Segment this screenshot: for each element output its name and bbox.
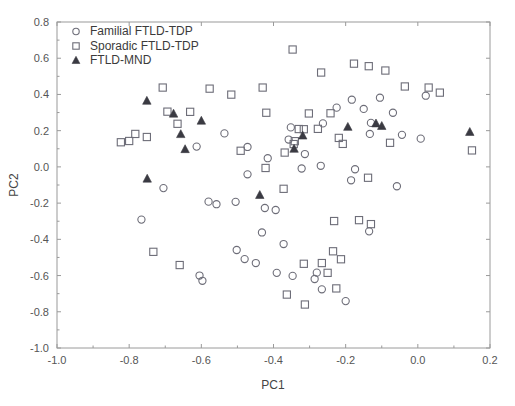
data-point-open-circle	[221, 130, 228, 137]
data-point-open-square	[401, 83, 408, 90]
data-point-open-square	[318, 259, 325, 266]
data-point-open-circle	[398, 131, 405, 138]
x-axis-tick-label: -1.0	[48, 354, 67, 366]
y-axis-tick-label: 0.6	[34, 52, 49, 64]
data-point-open-square	[318, 69, 325, 76]
data-point-open-square	[150, 248, 157, 255]
x-axis-tick-label: -0.4	[264, 354, 283, 366]
data-point-filled-triangle	[466, 128, 474, 136]
x-axis-tick-label: 0.0	[410, 354, 425, 366]
data-point-open-square	[73, 43, 79, 49]
data-point-open-square	[367, 221, 374, 228]
data-point-open-circle	[289, 272, 296, 279]
legend-item-label: FTLD-MND	[90, 53, 152, 67]
y-axis-tick-label: -0.2	[30, 197, 49, 209]
data-point-open-circle	[261, 204, 268, 211]
x-axis-tick-label: -0.6	[192, 354, 211, 366]
data-point-open-circle	[205, 198, 212, 205]
data-point-open-square	[324, 269, 331, 276]
data-point-open-circle	[273, 269, 280, 276]
data-point-open-circle	[287, 124, 294, 131]
data-point-open-circle	[347, 177, 354, 184]
data-point-open-square	[337, 256, 344, 263]
data-point-open-square	[237, 147, 244, 154]
y-axis-tick-label: -0.4	[30, 233, 49, 245]
data-point-open-circle	[138, 216, 145, 223]
data-point-open-circle	[319, 120, 326, 127]
legend-item-label: Familial FTLD-TDP	[90, 24, 193, 38]
series-group	[143, 96, 474, 198]
chart-legend: Familial FTLD-TDPSporadic FTLD-TDPFTLD-M…	[72, 24, 199, 67]
data-point-filled-triangle	[344, 122, 352, 130]
data-point-open-circle	[376, 94, 383, 101]
scatter-plot-figure: -1.0-0.8-0.6-0.4-0.20.00.2-1.0-0.8-0.6-0…	[0, 0, 515, 406]
data-point-open-circle	[393, 183, 400, 190]
data-point-open-circle	[241, 255, 248, 262]
data-point-open-square	[164, 108, 171, 115]
data-point-open-circle	[417, 135, 424, 142]
data-point-open-circle	[213, 201, 220, 208]
data-point-open-circle	[73, 28, 79, 34]
plot-svg: -1.0-0.8-0.6-0.4-0.20.00.2-1.0-0.8-0.6-0…	[0, 0, 515, 406]
data-point-filled-triangle	[177, 130, 185, 138]
series-group	[117, 46, 475, 308]
data-point-open-circle	[311, 275, 318, 282]
data-point-open-circle	[366, 130, 373, 137]
data-points-group	[117, 46, 475, 308]
data-point-open-square	[159, 84, 166, 91]
data-point-open-square	[187, 108, 194, 115]
x-axis-tick-label: -0.2	[336, 354, 355, 366]
data-point-open-circle	[351, 166, 358, 173]
data-point-open-circle	[348, 96, 355, 103]
data-point-open-square	[350, 60, 357, 67]
data-point-open-square	[468, 147, 475, 154]
data-point-open-circle	[244, 171, 251, 178]
data-point-open-square	[295, 125, 302, 132]
data-point-open-square	[333, 285, 340, 292]
data-point-open-square	[117, 139, 124, 146]
x-axis-tick-label: 0.2	[482, 354, 497, 366]
data-point-open-circle	[342, 297, 349, 304]
data-point-open-square	[283, 291, 290, 298]
data-point-open-square	[143, 133, 150, 140]
data-point-open-square	[436, 89, 443, 96]
data-point-open-square	[425, 84, 432, 91]
data-point-open-square	[365, 63, 372, 70]
data-point-filled-triangle	[143, 96, 151, 104]
data-point-open-square	[364, 174, 371, 181]
data-point-open-circle	[233, 246, 240, 253]
y-axis-tick-label: -0.6	[30, 270, 49, 282]
data-point-open-circle	[193, 143, 200, 150]
data-point-open-square	[228, 91, 235, 98]
data-point-open-square	[289, 46, 296, 53]
data-point-open-circle	[160, 184, 167, 191]
data-point-open-circle	[280, 240, 287, 247]
data-point-open-square	[382, 67, 389, 74]
data-point-open-square	[176, 261, 183, 268]
data-point-open-square	[263, 109, 270, 116]
data-point-filled-triangle	[181, 145, 189, 153]
data-point-open-square	[305, 110, 312, 117]
data-point-open-circle	[244, 143, 251, 150]
data-point-open-square	[331, 217, 338, 224]
data-point-open-circle	[272, 206, 279, 213]
legend-item-label: Sporadic FTLD-TDP	[90, 39, 199, 53]
data-point-open-square	[280, 185, 287, 192]
x-axis-tick-label: -0.8	[120, 354, 139, 366]
y-axis-tick-label: 0.0	[34, 161, 49, 173]
data-point-filled-triangle	[256, 191, 264, 199]
data-point-open-square	[174, 120, 181, 127]
data-point-open-square	[327, 110, 334, 117]
data-point-open-square	[259, 84, 266, 91]
y-axis-tick-label: 0.4	[34, 88, 49, 100]
y-axis-title: PC2	[7, 173, 21, 197]
y-axis-tick-label: 0.2	[34, 125, 49, 137]
data-point-open-circle	[264, 155, 271, 162]
y-axis-tick-label: -1.0	[30, 342, 49, 354]
data-point-open-circle	[317, 162, 324, 169]
data-point-open-square	[281, 149, 288, 156]
data-point-open-circle	[389, 109, 396, 116]
plot-frame	[57, 22, 490, 348]
y-axis-tick-label: 0.8	[34, 16, 49, 28]
data-point-open-square	[300, 260, 307, 267]
